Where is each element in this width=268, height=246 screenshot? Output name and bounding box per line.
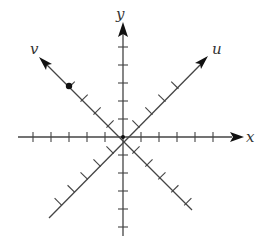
tick-mark [171, 82, 178, 89]
v-axis: v [30, 40, 192, 210]
u-axis-arrow-icon [195, 56, 208, 69]
origin-point [121, 135, 125, 139]
tick-mark [132, 120, 139, 127]
tick-mark [158, 172, 165, 179]
tick-mark [171, 185, 178, 192]
x-axis-label: x [246, 128, 255, 146]
tick-mark [81, 172, 88, 179]
tick-mark [106, 146, 113, 153]
tick-mark [145, 107, 152, 114]
point-on-v-axis [66, 83, 72, 89]
tick-mark [55, 198, 62, 205]
tick-mark [132, 146, 139, 153]
tick-mark [93, 159, 100, 166]
axes-svg: x y u v [0, 0, 268, 246]
tick-mark [81, 95, 88, 102]
tick-mark [93, 107, 100, 114]
tick-mark [106, 120, 113, 127]
tick-mark [158, 95, 165, 102]
y-axis: y [115, 5, 128, 236]
tick-mark [184, 198, 191, 205]
x-axis: x [18, 128, 255, 146]
u-axis: u [49, 40, 222, 218]
v-axis-label: v [30, 40, 39, 58]
x-axis-arrow-icon [230, 132, 244, 142]
tick-mark [68, 185, 75, 192]
y-axis-label: y [115, 5, 125, 23]
tick-mark [145, 159, 152, 166]
coordinate-diagram: x y u v [0, 0, 268, 246]
u-axis-label: u [212, 40, 222, 58]
